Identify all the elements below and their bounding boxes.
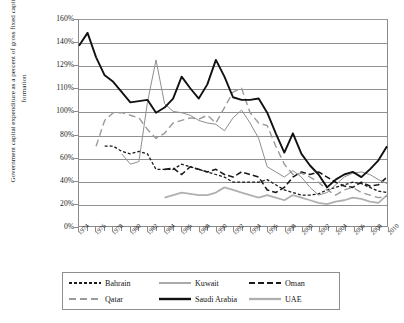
legend-swatch-oman xyxy=(248,278,282,288)
line-series-svg xyxy=(79,20,387,226)
y-axis-tick-label: 160% xyxy=(34,15,74,23)
legend-swatch-qatar xyxy=(68,294,102,304)
series-line-uae xyxy=(165,187,387,204)
y-axis-tick-label: 20% xyxy=(34,200,74,208)
legend-label: UAE xyxy=(285,295,302,304)
legend-swatch-saudi_arabia xyxy=(158,294,192,304)
chart-legend: BahrainKuwaitOmanQatarSaudi ArabiaUAE xyxy=(62,272,340,310)
legend-label: Qatar xyxy=(105,295,123,304)
legend-item-oman[interactable]: Oman xyxy=(246,275,336,291)
x-axis-tick-labels: 1974197619781980198219841986198819901992… xyxy=(78,231,398,265)
legend-label: Kuwait xyxy=(195,279,219,288)
y-axis-tick-label: 60% xyxy=(34,154,74,162)
legend-item-uae[interactable]: UAE xyxy=(246,291,336,307)
y-axis-tick-label: 80% xyxy=(34,131,74,139)
x-axis-tick-label: 2010 xyxy=(386,222,400,236)
legend-item-kuwait[interactable]: Kuwait xyxy=(156,275,246,291)
y-axis-tick-label: 40% xyxy=(34,177,74,185)
legend-label: Bahrain xyxy=(105,279,131,288)
y-axis-title-container: Government capital expenditure as a perc… xyxy=(0,0,36,240)
y-axis-tick-labels: 160%140%129%110%100%80%60%40%20%0% xyxy=(32,19,74,227)
series-line-saudi_arabia xyxy=(79,33,387,188)
series-layer xyxy=(79,20,387,226)
plot-area xyxy=(78,19,388,227)
y-axis-tick-label: 110% xyxy=(34,84,74,92)
series-line-bahrain xyxy=(105,146,387,195)
y-axis-tick-label: 0% xyxy=(34,223,74,231)
legend-item-qatar[interactable]: Qatar xyxy=(66,291,156,307)
series-line-oman xyxy=(165,167,387,193)
y-axis-title: Government capital expenditure as a perc… xyxy=(8,0,29,193)
series-line-kuwait xyxy=(122,60,387,195)
legend-swatch-bahrain xyxy=(68,278,102,288)
y-axis-tick-label: 140% xyxy=(34,38,74,46)
legend-swatch-uae xyxy=(248,294,282,304)
y-axis-tick-label: 100% xyxy=(34,107,74,115)
legend-item-saudi_arabia[interactable]: Saudi Arabia xyxy=(156,291,246,307)
legend-item-bahrain[interactable]: Bahrain xyxy=(66,275,156,291)
legend-swatch-kuwait xyxy=(158,278,192,288)
series-line-qatar xyxy=(96,88,387,197)
y-axis-tick-label: 129% xyxy=(34,61,74,69)
chart-figure: Government capital expenditure as a perc… xyxy=(0,0,404,323)
legend-label: Oman xyxy=(285,279,305,288)
legend-label: Saudi Arabia xyxy=(195,295,237,304)
